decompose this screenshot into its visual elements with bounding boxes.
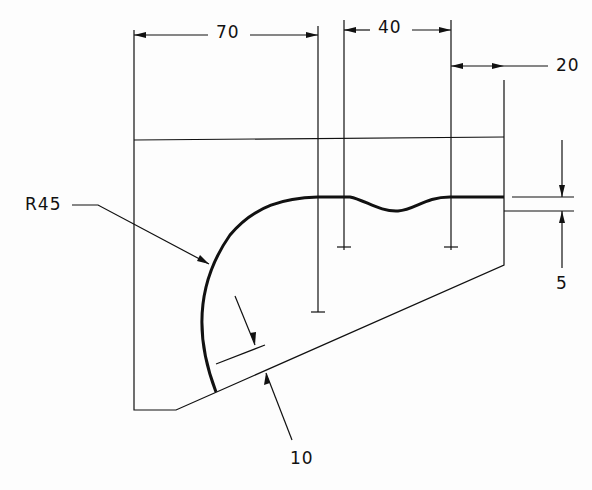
r45-leader [72, 205, 209, 264]
dim-70-label: 70 [216, 22, 240, 42]
technical-drawing [0, 0, 592, 490]
profile-curve [202, 197, 504, 392]
r45-label: R45 [25, 194, 61, 214]
top-edge [134, 137, 504, 140]
dim-40-label: 40 [378, 17, 402, 37]
dim-5-label: 5 [556, 273, 568, 293]
thickness-line [216, 345, 265, 364]
dim-10-leader [266, 373, 292, 440]
dim-20-label: 20 [556, 55, 580, 75]
dim-10-label: 10 [290, 448, 314, 468]
part-outline [134, 30, 504, 410]
